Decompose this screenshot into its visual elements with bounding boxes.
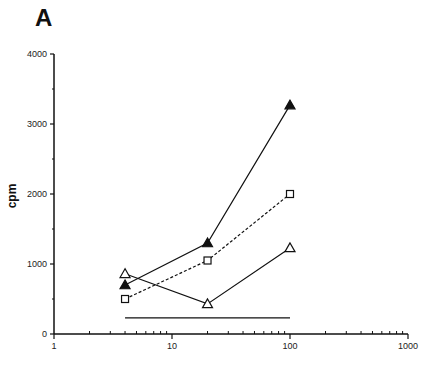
data-point-open-square <box>287 191 294 198</box>
y-tick-label: 0 <box>42 329 47 339</box>
data-point-open-triangle <box>203 299 213 308</box>
data-point-filled-triangle <box>285 100 295 109</box>
data-point-open-triangle <box>120 269 130 278</box>
x-tick-label: 100 <box>282 341 297 351</box>
data-point-open-square <box>204 257 211 264</box>
data-point-open-square <box>122 296 129 303</box>
x-tick-label: 1 <box>51 341 56 351</box>
data-point-filled-triangle <box>120 280 130 289</box>
x-tick-label: 10 <box>167 341 177 351</box>
y-axis-label: cpm <box>5 184 19 209</box>
data-point-filled-triangle <box>203 238 213 247</box>
data-point-open-triangle <box>285 243 295 252</box>
axes: 010002000300040001101001000 <box>27 49 418 351</box>
y-tick-label: 3000 <box>27 119 47 129</box>
chart: 010002000300040001101001000 cpm <box>0 0 423 370</box>
plot-area <box>120 100 295 318</box>
x-tick-label: 1000 <box>398 341 418 351</box>
y-tick-label: 2000 <box>27 189 47 199</box>
y-tick-label: 1000 <box>27 259 47 269</box>
y-tick-label: 4000 <box>27 49 47 59</box>
series-line-open-triangle <box>125 248 290 304</box>
